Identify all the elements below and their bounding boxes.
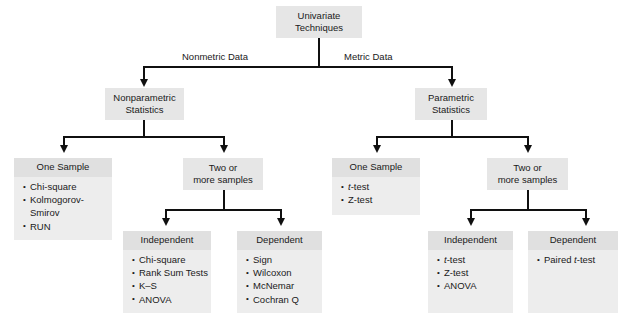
node-nonparametric-statistics-line2: Statistics bbox=[107, 104, 182, 116]
panel-nonmetric-independent: Independent Chi-square Rank Sum Tests K–… bbox=[123, 231, 211, 313]
list-item-suffix: -test bbox=[577, 254, 595, 265]
list-item: Paired t-test bbox=[537, 254, 614, 266]
node-metric-two-or-more-line1: Two or bbox=[489, 162, 566, 174]
node-parametric-statistics-line2: Statistics bbox=[417, 104, 485, 116]
panel-nonmetric-dependent-body: Sign Wilcoxon McNemar Cochran Q bbox=[237, 250, 322, 313]
node-nonmetric-two-or-more-samples: Two or more samples bbox=[183, 158, 263, 190]
list-item: t-test bbox=[437, 254, 509, 266]
node-nonparametric-statistics-line1: Nonparametric bbox=[107, 92, 182, 104]
panel-nonmetric-independent-header: Independent bbox=[123, 231, 211, 250]
node-nonmetric-two-or-more-line2: more samples bbox=[185, 174, 261, 186]
node-univariate-techniques-line2: Techniques bbox=[278, 22, 360, 34]
panel-nonmetric-independent-body: Chi-square Rank Sum Tests K–S ANOVA bbox=[123, 250, 211, 313]
panel-metric-independent-body: t-test Z-test ANOVA bbox=[428, 250, 513, 313]
connector-metric-two-or-more-stem bbox=[527, 190, 529, 209]
arrowhead-to-metric-independent bbox=[467, 218, 475, 226]
list-item: K–S bbox=[132, 280, 207, 292]
arrowhead-to-nonmetric-independent bbox=[162, 218, 170, 226]
arrowhead-to-parametric bbox=[448, 79, 456, 87]
panel-nonmetric-one-sample-body: Chi-square Kolmogorov- Smirov RUN bbox=[14, 177, 112, 240]
panel-metric-one-sample: One Sample t-test Z-test bbox=[332, 158, 420, 215]
list-item: Chi-square bbox=[23, 181, 108, 193]
panel-metric-one-sample-body: t-test Z-test bbox=[332, 177, 420, 215]
arrowhead-to-nonmetric-two-or-more bbox=[220, 145, 228, 153]
list-item: Rank Sum Tests bbox=[132, 267, 207, 279]
arrowhead-to-nonmetric-dependent bbox=[277, 218, 285, 226]
connector-parametric-bus bbox=[376, 136, 529, 138]
panel-nonmetric-one-sample-header: One Sample bbox=[14, 158, 112, 177]
diagram-canvas: Univariate Techniques Nonmetric Data Met… bbox=[0, 0, 635, 319]
arrowhead-to-nonparametric bbox=[140, 79, 148, 87]
node-nonparametric-statistics: Nonparametric Statistics bbox=[105, 88, 184, 120]
list-item-prefix: Paired bbox=[544, 254, 574, 265]
list-item: McNemar bbox=[246, 280, 318, 292]
connector-top-bus bbox=[143, 66, 453, 68]
list-item: t-test bbox=[341, 181, 416, 193]
arrowhead-to-metric-two-or-more bbox=[524, 145, 532, 153]
node-parametric-statistics: Parametric Statistics bbox=[415, 88, 487, 120]
connector-nonparametric-stem bbox=[143, 120, 145, 136]
node-metric-two-or-more-line2: more samples bbox=[489, 174, 566, 186]
connector-nonmetric-two-or-more-stem bbox=[223, 190, 225, 209]
node-univariate-techniques: Univariate Techniques bbox=[276, 6, 362, 38]
arrowhead-to-metric-dependent bbox=[582, 218, 590, 226]
connector-nonparametric-bus bbox=[63, 136, 225, 138]
list-item: Kolmogorov- bbox=[23, 194, 108, 206]
list-item: Z-test bbox=[437, 267, 509, 279]
connector-metric-two-or-more-bus bbox=[470, 209, 587, 211]
node-univariate-techniques-line1: Univariate bbox=[278, 10, 360, 22]
list-item: RUN bbox=[23, 221, 108, 233]
arrowhead-to-metric-one-sample bbox=[373, 145, 381, 153]
panel-metric-one-sample-header: One Sample bbox=[332, 158, 420, 177]
list-item: ANOVA bbox=[132, 294, 207, 306]
edge-label-nonmetric-data: Nonmetric Data bbox=[182, 51, 248, 62]
arrowhead-to-nonmetric-one-sample bbox=[60, 145, 68, 153]
edge-label-metric-data: Metric Data bbox=[344, 51, 393, 62]
connector-nonmetric-two-or-more-bus bbox=[165, 209, 282, 211]
list-item: Wilcoxon bbox=[246, 267, 318, 279]
panel-metric-dependent: Dependent Paired t-test bbox=[528, 231, 618, 313]
list-item: Sign bbox=[246, 254, 318, 266]
list-item: Smirov bbox=[23, 207, 108, 219]
panel-metric-independent-header: Independent bbox=[428, 231, 513, 250]
panel-nonmetric-dependent: Dependent Sign Wilcoxon McNemar Cochran … bbox=[237, 231, 322, 313]
list-item: Chi-square bbox=[132, 254, 207, 266]
panel-metric-dependent-body: Paired t-test bbox=[528, 250, 618, 313]
panel-metric-independent: Independent t-test Z-test ANOVA bbox=[428, 231, 513, 313]
list-item: Cochran Q bbox=[246, 294, 318, 306]
list-item: Z-test bbox=[341, 194, 416, 206]
connector-root-stem bbox=[318, 38, 320, 66]
node-nonmetric-two-or-more-line1: Two or bbox=[185, 162, 261, 174]
node-metric-two-or-more-samples: Two or more samples bbox=[487, 158, 568, 190]
list-item: ANOVA bbox=[437, 280, 509, 292]
list-item-suffix: -test bbox=[447, 254, 465, 265]
node-parametric-statistics-line1: Parametric bbox=[417, 92, 485, 104]
connector-parametric-stem bbox=[451, 120, 453, 136]
panel-metric-dependent-header: Dependent bbox=[528, 231, 618, 250]
panel-nonmetric-one-sample: One Sample Chi-square Kolmogorov- Smirov… bbox=[14, 158, 112, 240]
panel-nonmetric-dependent-header: Dependent bbox=[237, 231, 322, 250]
list-item-suffix: -test bbox=[351, 181, 369, 192]
